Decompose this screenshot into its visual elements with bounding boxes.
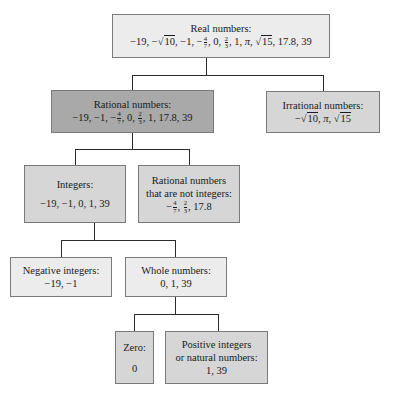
connector-to-integers	[75, 149, 76, 165]
node-members: −19, −1	[45, 277, 78, 290]
node-irrational-numbers: Irrational numbers: −√10, π, √15	[266, 91, 380, 133]
node-rational-numbers: Rational numbers: −19, −1, −47, 0, 23, 1…	[51, 90, 214, 133]
node-title-line-2: that are not integers:	[146, 187, 232, 200]
node-members: −47, 23, 17.8	[166, 200, 211, 215]
connector-rational-bar	[75, 149, 190, 150]
fraction-4-7: 47	[117, 111, 120, 125]
sqrt-10: √10	[158, 35, 175, 48]
sqrt-15: √15	[255, 35, 272, 48]
node-members: 0	[132, 362, 137, 375]
connector-real-bar	[132, 75, 324, 76]
connector-to-zero	[134, 314, 135, 331]
node-title: Irrational numbers:	[283, 99, 364, 112]
node-members: −19, −1, 0, 1, 39	[40, 197, 110, 210]
connector-to-whole-numbers	[175, 240, 176, 257]
connector-to-positive-integers	[218, 314, 219, 331]
node-title: Integers:	[57, 178, 94, 191]
node-title-line-1: Rational numbers	[152, 174, 226, 187]
sqrt-10: √10	[301, 112, 318, 125]
node-title-line-2: or natural numbers:	[175, 351, 257, 364]
node-zero: Zero: 0	[115, 331, 154, 384]
node-title-line-1: Positive integers	[182, 338, 252, 351]
connector-integers-bar	[61, 240, 176, 241]
node-members: −19, −1, −47, 0, 23, 1, 17.8, 39	[72, 111, 192, 126]
fraction-4-7: 47	[173, 200, 176, 214]
connector-to-rational	[132, 75, 133, 90]
node-title: Real numbers:	[191, 22, 252, 35]
node-real-numbers: Real numbers: −19, −√10, −1, −47, 0, 23,…	[112, 14, 330, 58]
fraction-2-3: 23	[225, 36, 228, 50]
node-members: 1, 39	[206, 364, 227, 377]
node-whole-numbers: Whole numbers: 0, 1, 39	[125, 257, 227, 297]
node-integers: Integers: −19, −1, 0, 1, 39	[24, 165, 126, 223]
node-negative-integers: Negative integers: −19, −1	[10, 257, 112, 297]
connector-rational-stem	[132, 133, 133, 149]
node-title: Rational numbers:	[94, 98, 171, 111]
node-positive-integers: Positive integers or natural numbers: 1,…	[165, 331, 268, 384]
connector-integers-stem	[94, 223, 95, 240]
node-title: Whole numbers:	[141, 264, 211, 277]
connector-to-irrational	[323, 75, 324, 91]
node-members: −√10, π, √15	[295, 112, 351, 125]
connector-to-rational-not-integers	[189, 149, 190, 165]
fraction-2-3: 23	[184, 200, 187, 214]
fraction-2-3: 23	[138, 111, 141, 125]
connector-real-stem	[206, 57, 207, 75]
node-title: Zero:	[123, 341, 146, 354]
connector-to-negative-integers	[61, 240, 62, 257]
sqrt-15: √15	[334, 112, 351, 125]
node-members: 0, 1, 39	[160, 277, 192, 290]
connector-whole-stem	[175, 297, 176, 314]
connector-whole-bar	[134, 314, 219, 315]
node-members: −19, −√10, −1, −47, 0, 23, 1, π, √15, 17…	[130, 35, 312, 50]
node-title: Negative integers:	[23, 264, 100, 277]
node-rational-not-integers: Rational numbers that are not integers: …	[138, 165, 240, 223]
fraction-4-7: 47	[204, 36, 207, 50]
